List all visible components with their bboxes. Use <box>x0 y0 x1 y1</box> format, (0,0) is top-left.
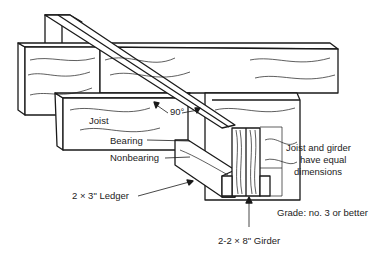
label-nonbearing: Nonbearing <box>110 152 159 163</box>
label-equal-2: have equal <box>300 154 346 165</box>
label-equal-1: Joist and girder <box>286 142 351 153</box>
label-grade: Grade: no. 3 or better <box>277 207 368 218</box>
label-bearing: Bearing <box>110 135 143 146</box>
label-joist: Joist <box>89 115 109 126</box>
joist-girder-diagram: Joist 90° Bearing Nonbearing 2 × 3" Ledg… <box>0 0 392 259</box>
label-angle: 90° <box>170 106 185 117</box>
ledger-arrowhead <box>187 180 193 185</box>
label-ledger: 2 × 3" Ledger <box>72 190 129 201</box>
label-girder: 2-2 × 8" Girder <box>218 235 280 246</box>
label-equal-3: dimensions <box>294 166 342 177</box>
